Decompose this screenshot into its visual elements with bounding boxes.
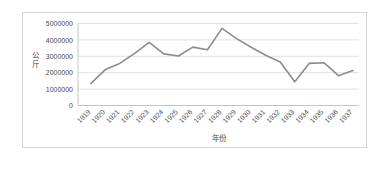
y-tick-label: 4000000 (46, 37, 73, 44)
gridlines (78, 24, 359, 106)
x-tick-label: 1933 (280, 108, 296, 124)
y-axis-title-char: 斤 (32, 59, 39, 69)
y-tick-label: 5000000 (46, 20, 73, 27)
x-tick-label: 1936 (323, 108, 339, 124)
x-tick-label: 1930 (236, 108, 252, 124)
y-tick-label: 3000000 (46, 53, 73, 60)
y-axis-title-char: 公 (32, 51, 40, 60)
x-tick-label: 1934 (294, 108, 310, 124)
x-tick-label: 1925 (163, 108, 179, 124)
x-tick-label: 1935 (309, 108, 325, 124)
x-tick-label: 1924 (149, 108, 165, 124)
x-tick-label: 1919 (76, 108, 92, 124)
y-tick-label: 2000000 (46, 69, 73, 76)
x-tick-label: 1926 (178, 108, 194, 124)
y-tick-labels: 5000000 4000000 3000000 2000000 1000000 … (46, 20, 73, 109)
x-tick-label: 1922 (119, 108, 135, 124)
chart-frame: 5000000 4000000 3000000 2000000 1000000 … (22, 12, 367, 148)
y-axis-title: 公 斤 (32, 51, 40, 69)
x-tick-label: 1931 (250, 108, 266, 124)
y-tick-label: 1000000 (46, 86, 73, 93)
line-chart: 5000000 4000000 3000000 2000000 1000000 … (23, 13, 366, 147)
x-tick-label: 1937 (338, 108, 354, 124)
x-tick-label: 1920 (90, 108, 106, 124)
x-axis-title: 年份 (212, 133, 227, 143)
x-tick-label: 1932 (265, 108, 281, 124)
data-series-line (91, 28, 353, 83)
x-tick-labels: 1919192019211922192319241925192619271928… (76, 108, 354, 124)
x-tick-label: 1923 (134, 108, 150, 124)
y-tick-label: 0 (69, 102, 73, 109)
x-tick-label: 1929 (221, 108, 237, 124)
x-tick-label: 1927 (192, 108, 208, 124)
x-tick-label: 1928 (207, 108, 223, 124)
x-tick-label: 1921 (105, 108, 121, 124)
